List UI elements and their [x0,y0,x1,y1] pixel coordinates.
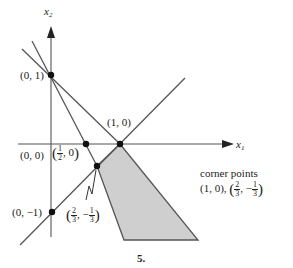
point-0-1 [48,72,54,78]
feasible-region [97,144,198,240]
point-half-0 [83,141,89,147]
annotation-corner-points: (1, 0), (23, −13) [200,181,263,198]
x-axis-label: x1 [236,139,244,152]
label-point-0-1: (0, 1) [20,70,44,81]
label-point-0-m1: (0, −1) [12,207,42,218]
annotation-title: corner points [200,168,258,179]
point-twothirds [94,163,100,169]
constraint-line-shallow [22,49,120,144]
y-axis-label: x2 [44,6,52,19]
point-0-m1 [49,209,55,215]
x-axis-arrow-icon [222,140,234,148]
point-1-0 [117,141,123,147]
y-axis-arrow-icon [47,26,55,38]
label-point-1-0: (1, 0) [107,117,131,128]
label-point-0-0: (0, 0) [20,150,44,161]
figure-number: 5. [137,253,145,264]
label-point-twothirds: (23, −13) [66,207,100,224]
pointer-zigzag [86,170,96,200]
label-point-half-0: (12, 0) [52,145,79,162]
feasible-region-diagram [0,0,293,268]
